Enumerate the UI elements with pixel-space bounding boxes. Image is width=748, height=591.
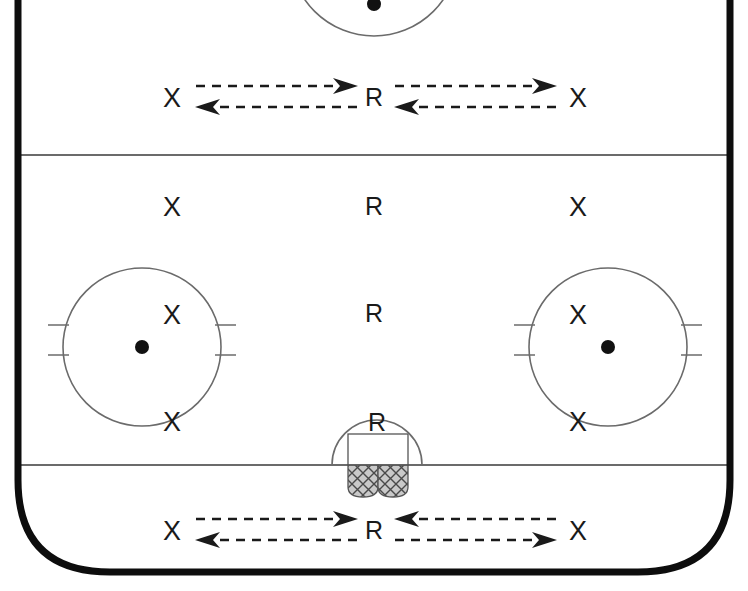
goal-net (348, 434, 408, 497)
marker-x-bottom-right: X (569, 518, 587, 545)
marker-x-circle-right-bottom: X (569, 409, 587, 436)
marker-x-circle-left-top: X (163, 302, 181, 329)
marker-r-goal-crease: R (368, 410, 386, 435)
marker-x-neutral-right: X (569, 194, 587, 221)
marker-x-circle-left-bottom: X (163, 409, 181, 436)
marker-x-bottom-left: X (163, 518, 181, 545)
marker-r-bottom-center: R (365, 518, 383, 543)
marker-r-top-center: R (365, 85, 383, 110)
marker-r-neutral-upper: R (365, 194, 383, 219)
marker-x-top-right: X (569, 85, 587, 112)
marker-x-top-left: X (163, 85, 181, 112)
hockey-rink-diagram: XRXXRXXRXXRXXRX (0, 0, 748, 591)
marker-r-center-lower: R (365, 301, 383, 326)
marker-x-circle-right-top: X (569, 302, 587, 329)
marker-x-neutral-left: X (163, 194, 181, 221)
